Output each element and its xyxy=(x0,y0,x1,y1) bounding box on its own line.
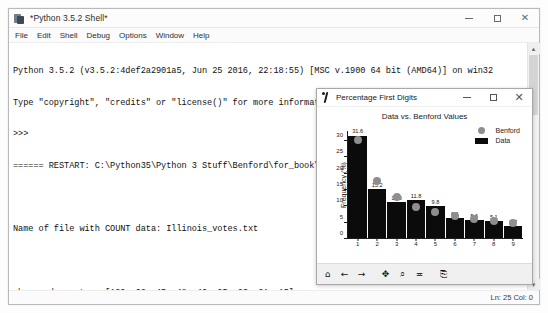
idle-statusbar: Ln: 25 Col: 0 xyxy=(9,290,539,304)
chart-legend: Benford Data xyxy=(473,127,520,144)
benford-marker xyxy=(393,193,401,201)
bar-slot-9[interactable]: 3.7 9 xyxy=(504,131,523,238)
close-icon[interactable]: ✕ xyxy=(511,9,539,27)
figure-titlebar[interactable]: Percentage First Digits ✕ xyxy=(317,89,532,107)
cursor-position-status: Ln: 25 Col: 0 xyxy=(490,293,533,302)
bar-slot-1[interactable]: 31.6 1 xyxy=(348,131,367,238)
screen: *Python 3.5.2 Shell* ✕ File Edit Shell D… xyxy=(0,0,548,313)
home-button[interactable]: ⌂ xyxy=(320,267,335,282)
maximize-icon[interactable] xyxy=(480,89,506,106)
bar-slot-3[interactable]: 11.0 3 xyxy=(387,131,406,238)
benford-marker xyxy=(490,217,498,225)
figure-canvas[interactable]: Data vs. Benford Values Frequency (%) 0 … xyxy=(317,107,532,263)
bar-slot-5[interactable]: 9.8 5 xyxy=(426,131,445,238)
x-tick-label: 7 xyxy=(473,238,476,247)
pan-move-button[interactable]: ✥ xyxy=(378,267,393,282)
bar-value-label: 9.8 xyxy=(432,199,440,205)
x-tick-label: 1 xyxy=(356,238,359,247)
benford-marker xyxy=(470,215,478,223)
close-icon[interactable]: ✕ xyxy=(506,89,532,106)
benford-marker xyxy=(373,177,381,185)
x-tick-label: 2 xyxy=(375,238,378,247)
x-tick-label: 8 xyxy=(492,238,495,247)
data-bar[interactable] xyxy=(446,218,465,238)
minimize-icon[interactable] xyxy=(454,89,480,106)
idle-window-title: *Python 3.5.2 Shell* xyxy=(30,13,108,23)
bar-value-label: 31.6 xyxy=(352,128,363,134)
data-bar[interactable] xyxy=(387,202,406,238)
matplotlib-figure-window: Percentage First Digits ✕ Data vs. Benfo… xyxy=(316,88,533,285)
y-tick-label: 30 xyxy=(336,132,347,138)
benford-legend-marker-icon xyxy=(478,127,485,134)
x-tick-label: 3 xyxy=(395,238,398,247)
data-legend-bar-icon xyxy=(475,138,488,144)
matplotlib-icon xyxy=(321,92,331,103)
legend-entry-data: Data xyxy=(473,137,520,144)
menu-item-debug[interactable]: Debug xyxy=(85,31,111,40)
x-tick-label: 4 xyxy=(414,238,417,247)
figure-window-controls: ✕ xyxy=(454,89,532,106)
scroll-up-arrow[interactable]: ▲ xyxy=(528,43,540,54)
y-tick-label: 15 xyxy=(336,181,347,187)
benford-marker xyxy=(509,219,517,227)
minimize-icon[interactable] xyxy=(455,9,483,27)
matplotlib-navigation-toolbar: ⌂ ← → ✥ ⌕ ≖ ⎘ xyxy=(317,263,532,284)
menu-item-help[interactable]: Help xyxy=(192,31,210,40)
x-tick-label: 6 xyxy=(453,238,456,247)
configure-subplots-button[interactable]: ≖ xyxy=(412,267,427,282)
benford-marker xyxy=(431,208,439,216)
data-bar[interactable] xyxy=(504,226,523,238)
benford-marker xyxy=(451,212,459,220)
data-bar[interactable] xyxy=(348,136,367,239)
menu-item-edit[interactable]: Edit xyxy=(36,31,52,40)
shell-line: observed counts = [129, 62, 45, 48, 40, … xyxy=(13,288,524,290)
x-tick-label: 9 xyxy=(512,238,515,247)
idle-menubar: File Edit Shell Debug Options Window Hel… xyxy=(9,28,539,43)
zoom-rect-button[interactable]: ⌕ xyxy=(395,267,410,282)
bar-slot-7[interactable]: 5.6 7 xyxy=(465,131,484,238)
idle-window-controls: ✕ xyxy=(455,9,539,27)
chart-title: Data vs. Benford Values xyxy=(317,112,532,121)
save-figure-button[interactable]: ⎘ xyxy=(436,267,451,282)
y-tick-label: 10 xyxy=(336,197,347,203)
y-tick-label: 5 xyxy=(340,214,347,220)
menu-item-window[interactable]: Window xyxy=(155,31,185,40)
bar-group: 31.6 1 15.2 2 11.0 xyxy=(348,131,523,238)
idle-titlebar[interactable]: *Python 3.5.2 Shell* ✕ xyxy=(9,9,539,28)
maximize-icon[interactable] xyxy=(483,9,511,27)
x-tick-label: 5 xyxy=(434,238,437,247)
data-bar[interactable] xyxy=(368,189,387,238)
bar-value-label: 11.8 xyxy=(411,193,421,199)
benford-marker xyxy=(354,136,362,144)
shell-line: Python 3.5.2 (v3.5.2:4def2a2901a5, Jun 2… xyxy=(13,66,524,77)
legend-label: Data xyxy=(495,137,510,144)
forward-arrow-button[interactable]: → xyxy=(354,267,369,282)
legend-label: Benford xyxy=(495,127,520,134)
y-tick-label: 25 xyxy=(336,148,347,154)
menu-item-shell[interactable]: Shell xyxy=(59,31,79,40)
y-tick-label: 20 xyxy=(336,165,347,171)
python-idle-icon xyxy=(14,13,25,24)
bar-slot-2[interactable]: 15.2 2 xyxy=(368,131,387,238)
bar-slot-8[interactable]: 5.1 8 xyxy=(485,131,504,238)
bar-slot-6[interactable]: 6.1 6 xyxy=(446,131,465,238)
back-arrow-button[interactable]: ← xyxy=(337,267,352,282)
menu-item-options[interactable]: Options xyxy=(118,31,148,40)
bar-slot-4[interactable]: 11.8 4 xyxy=(407,131,426,238)
figure-window-title: Percentage First Digits xyxy=(336,93,417,102)
plot-area: Frequency (%) 0 5 10 15 20 25 30 31.6 xyxy=(347,131,523,239)
y-tick-label: 0 xyxy=(340,230,347,236)
legend-entry-benford: Benford xyxy=(473,127,520,134)
menu-item-file[interactable]: File xyxy=(14,31,29,40)
benford-marker xyxy=(412,203,420,211)
